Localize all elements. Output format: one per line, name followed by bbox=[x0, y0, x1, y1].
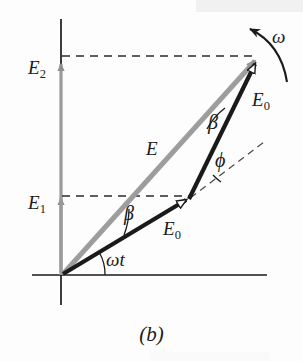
label-omega: ω bbox=[272, 27, 285, 46]
label-E0-bottom: E0 bbox=[163, 219, 181, 241]
label-E2: E2 bbox=[28, 58, 46, 80]
label-E1: E1 bbox=[28, 193, 46, 215]
angle-arc-omega-t bbox=[99, 252, 105, 275]
vector-E-resultant bbox=[63, 61, 255, 274]
axes-group bbox=[32, 19, 267, 305]
label-beta-bottom: β bbox=[124, 203, 134, 223]
figure-caption: (b) bbox=[0, 322, 303, 347]
phasor-diagram-svg bbox=[0, 0, 303, 361]
dashed-lines-group bbox=[62, 56, 264, 205]
label-omega-t: ωt bbox=[106, 250, 125, 269]
label-phi: ϕ bbox=[215, 150, 225, 170]
vector-E0-second bbox=[189, 64, 255, 199]
label-E-resultant: E bbox=[146, 139, 158, 158]
label-E0-top: E0 bbox=[252, 90, 270, 112]
phasor-diagram-figure: E2 E1 E E0 E0 β β ϕ ωt ω (b) bbox=[0, 0, 303, 361]
label-beta-top: β bbox=[208, 112, 218, 132]
